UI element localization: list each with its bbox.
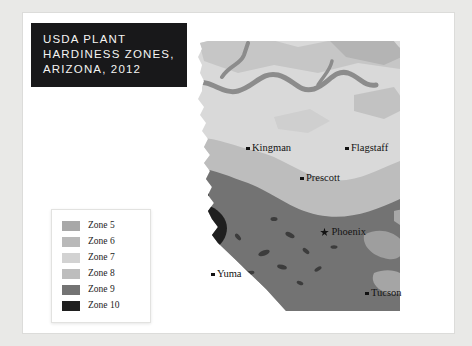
legend-label: Zone 10 [88, 301, 119, 311]
page-title-line-2: HARDINESS ZONES, [43, 47, 177, 62]
legend-label: Zone 8 [88, 269, 115, 279]
page-title-line-3: ARIZONA, 2012 [43, 62, 177, 77]
page-title-line-1: USDA PLANT [43, 32, 177, 47]
legend-item-zone-7: Zone 7 [62, 250, 142, 266]
zone-10-lower-colorado [178, 170, 209, 219]
legend-label: Zone 9 [88, 285, 115, 295]
legend-item-zone-5: Zone 5 [62, 218, 142, 234]
legend-swatch [62, 269, 80, 279]
page-sheet: USDA PLANT HARDINESS ZONES, ARIZONA, 201… [22, 12, 455, 334]
legend-swatch [62, 237, 80, 247]
arizona-map: Kingman Flagstaff Prescott Phoenix Yuma … [178, 21, 453, 331]
map-legend: Zone 5 Zone 6 Zone 7 Zone 8 Zone 9 Zone … [51, 209, 151, 323]
zone-8-east-edge [404, 41, 418, 331]
legend-item-zone-6: Zone 6 [62, 234, 142, 250]
legend-swatch [62, 301, 80, 311]
zone-9-west-finger [178, 98, 198, 167]
map-zone-fills [178, 21, 453, 331]
map-title-block: USDA PLANT HARDINESS ZONES, ARIZONA, 201… [31, 23, 187, 87]
legend-swatch [62, 285, 80, 295]
legend-label: Zone 7 [88, 253, 115, 263]
legend-item-zone-8: Zone 8 [62, 266, 142, 282]
legend-item-zone-9: Zone 9 [62, 282, 142, 298]
legend-item-zone-10: Zone 10 [62, 298, 142, 314]
legend-swatch [62, 221, 80, 231]
legend-swatch [62, 253, 80, 263]
zone-9-west-finger-inner [178, 117, 194, 169]
arizona-map-svg [178, 21, 453, 331]
legend-label: Zone 5 [88, 221, 115, 231]
legend-label: Zone 6 [88, 237, 115, 247]
